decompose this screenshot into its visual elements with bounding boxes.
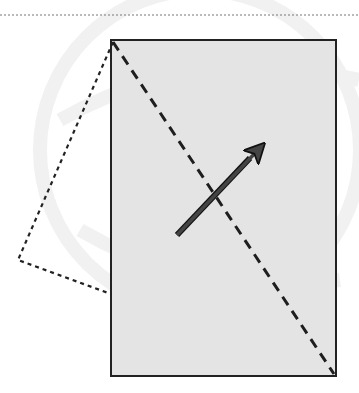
folded-flap-outline xyxy=(18,42,113,294)
diagram-canvas xyxy=(0,0,359,393)
